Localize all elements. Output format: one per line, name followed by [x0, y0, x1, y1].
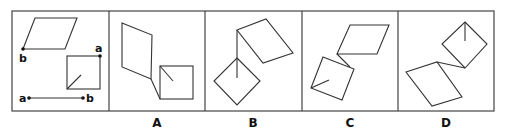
puzzle-frame [12, 11, 494, 111]
segment-label-b: b [86, 92, 94, 105]
option-label-c[interactable]: C [346, 116, 355, 130]
segment-point-a [27, 96, 31, 100]
option-label-a[interactable]: A [152, 116, 162, 130]
option-label-b[interactable]: B [248, 116, 257, 130]
parallelogram [122, 23, 152, 79]
question-panel: b a a b [19, 18, 102, 105]
segment-point-b [81, 96, 85, 100]
parallelogram [337, 25, 389, 54]
option-label-d[interactable]: D [441, 116, 451, 130]
square-inner-stroke [160, 66, 173, 81]
option-c-figure[interactable] [311, 25, 389, 100]
parallelogram [23, 18, 77, 49]
square-inner-stroke [67, 75, 81, 89]
label-b: b [19, 52, 27, 65]
parallelogram [237, 19, 293, 63]
figure-puzzle: b a a b A B C D [0, 0, 506, 133]
parallelogram [406, 62, 462, 106]
point-b [21, 47, 25, 51]
option-d-figure[interactable] [406, 22, 487, 106]
option-b-figure[interactable] [214, 19, 293, 105]
segment-label-a: a [19, 92, 26, 105]
option-a-figure[interactable] [122, 23, 193, 99]
connector [151, 79, 160, 99]
label-a: a [95, 42, 102, 55]
square [311, 57, 354, 100]
